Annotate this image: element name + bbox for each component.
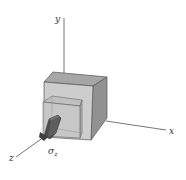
y-axis-label: y [54,14,61,24]
x-axis [106,121,166,130]
z-axis-label: z [8,153,14,163]
stress-label: σz [48,146,58,157]
z-axis [16,137,44,157]
stress-subscript: z [53,150,58,157]
x-axis-label: x [169,126,174,136]
stress-element-diagram: y x z σz [0,0,186,180]
cube-side-face [91,77,107,140]
